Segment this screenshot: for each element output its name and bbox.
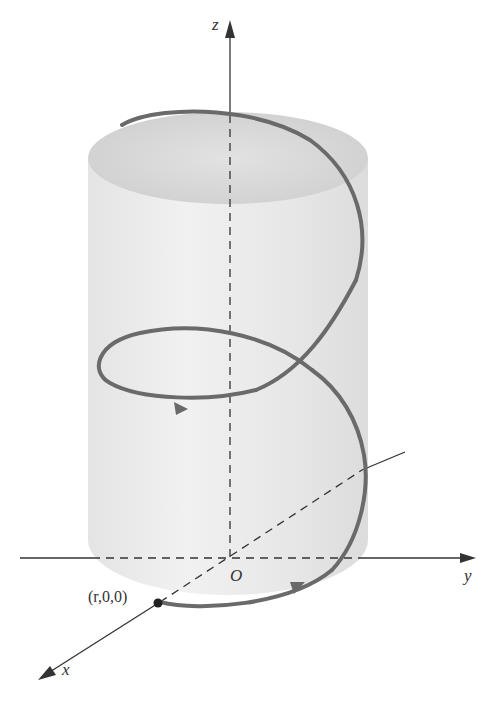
- helix-diagram: z y x O (r,0,0): [0, 0, 490, 708]
- y-arrow-icon: [460, 553, 476, 563]
- cylinder: [88, 112, 368, 595]
- z-arrow-icon: [225, 20, 235, 38]
- x-arrow-icon: [38, 666, 56, 680]
- diagram-canvas: z y x O (r,0,0): [0, 0, 490, 708]
- point-r00: [154, 599, 163, 608]
- origin-label: O: [230, 566, 242, 585]
- point-label: (r,0,0): [88, 588, 127, 606]
- x-axis-label: x: [61, 660, 70, 679]
- y-axis-label: y: [462, 566, 472, 585]
- z-axis-label: z: [211, 15, 219, 34]
- x-axis-far: [362, 452, 405, 470]
